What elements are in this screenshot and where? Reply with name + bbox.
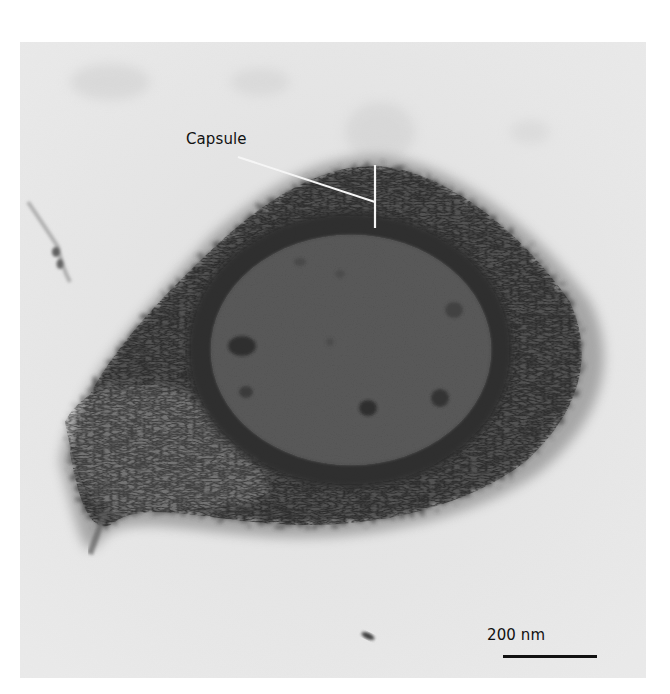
capsule-label: Capsule	[186, 132, 247, 147]
scale-bar-label: 200 nm	[487, 628, 545, 643]
micrograph-image	[20, 42, 646, 678]
micrograph-panel: Capsule 200 nm	[20, 42, 646, 678]
scale-bar	[503, 655, 597, 658]
